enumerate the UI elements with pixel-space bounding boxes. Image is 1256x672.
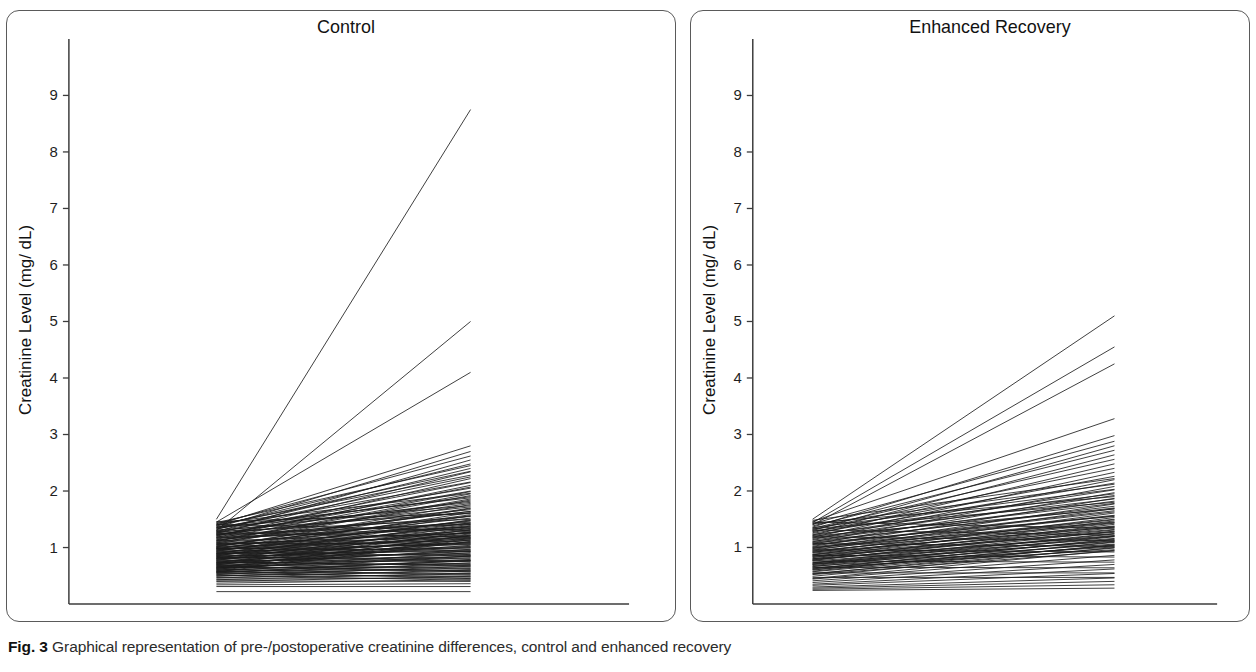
x-category-label-before: Before Surgery	[767, 618, 858, 621]
y-tick-label: 3	[50, 425, 58, 442]
x-category-label-before: Before Surgery	[171, 618, 262, 621]
x-category-label-after: After Surgery	[431, 618, 510, 621]
panel-title: Control	[317, 17, 375, 37]
y-tick-label: 1	[50, 539, 58, 556]
y-tick-label: 9	[50, 86, 58, 103]
y-tick-label: 2	[50, 482, 58, 499]
figure-root: ControlCreatinine Level (mg/ dL)12345678…	[0, 0, 1256, 672]
y-tick-label: 7	[50, 199, 58, 216]
patient-line-group	[813, 316, 1115, 591]
y-tick-label: 6	[50, 256, 58, 273]
patient-line	[216, 584, 470, 585]
figure-caption: Fig. 3 Graphical representation of pre-/…	[8, 638, 731, 656]
figure-caption-label: Fig. 3	[8, 638, 48, 655]
y-tick-label: 8	[50, 143, 58, 160]
caption-bar: Fig. 3 Graphical representation of pre-/…	[0, 632, 1256, 672]
panel-enhanced: Enhanced RecoveryCreatinine Level (mg/ d…	[690, 10, 1250, 622]
panels-area: ControlCreatinine Level (mg/ dL)12345678…	[0, 0, 1256, 632]
panel-title: Enhanced Recovery	[909, 17, 1070, 37]
patient-line	[216, 578, 470, 579]
patient-line-group	[216, 110, 470, 592]
figure-caption-body: Graphical representation of pre-/postope…	[52, 638, 731, 655]
y-tick-label: 5	[734, 312, 742, 329]
y-tick-label: 7	[734, 199, 742, 216]
x-category-label-after: After Surgery	[1075, 618, 1154, 621]
y-tick-label: 5	[50, 312, 58, 329]
patient-line	[216, 581, 470, 582]
patient-line	[813, 347, 1115, 523]
y-tick-label: 4	[734, 369, 742, 386]
y-tick-label: 6	[734, 256, 742, 273]
y-tick-label: 4	[50, 369, 58, 386]
y-axis-title: Creatinine Level (mg/ dL)	[700, 225, 719, 415]
panel-control: ControlCreatinine Level (mg/ dL)12345678…	[6, 10, 676, 622]
y-axis-title: Creatinine Level (mg/ dL)	[16, 225, 35, 415]
y-tick-label: 1	[734, 538, 742, 555]
y-tick-label: 2	[734, 482, 742, 499]
y-tick-label: 9	[734, 86, 742, 103]
enhanced-recovery-chart: Enhanced RecoveryCreatinine Level (mg/ d…	[691, 11, 1249, 621]
control-chart: ControlCreatinine Level (mg/ dL)12345678…	[7, 11, 675, 621]
y-tick-label: 8	[734, 143, 742, 160]
y-tick-label: 3	[734, 425, 742, 442]
